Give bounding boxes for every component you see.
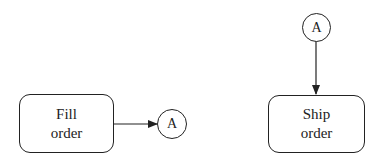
connector-label: A xyxy=(167,116,177,132)
process-label-line1: Fill xyxy=(56,105,77,124)
process-ship-order: Ship order xyxy=(268,95,365,153)
connector-label: A xyxy=(311,20,321,36)
process-label-line1: Ship xyxy=(303,105,331,124)
process-label-line2: order xyxy=(301,124,333,143)
process-label-line2: order xyxy=(51,124,83,143)
process-fill-order: Fill order xyxy=(19,94,114,153)
connector-a-out: A xyxy=(157,109,187,139)
connector-a-in: A xyxy=(302,13,331,42)
